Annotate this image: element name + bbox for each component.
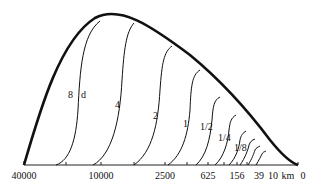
x-tick-10000: 10000 bbox=[89, 170, 114, 181]
curve-label-2: 2 bbox=[153, 110, 158, 121]
curve-label-1-8: 1/8 bbox=[234, 142, 247, 153]
x-tick-40000: 40000 bbox=[12, 170, 37, 181]
wave-envelope-diagram: 8 d 4 2 1 1/2 1/4 1/8 40000 10000 2500 6… bbox=[0, 0, 316, 193]
curve-label-8: 8 bbox=[68, 89, 73, 100]
curve-8d bbox=[56, 21, 100, 165]
curve-label-1-2: 1/2 bbox=[200, 121, 213, 132]
x-tick-156: 156 bbox=[230, 170, 245, 181]
x-axis-unit: km bbox=[282, 170, 295, 181]
envelope-curve bbox=[24, 14, 298, 165]
curve-label-d: d bbox=[81, 89, 86, 100]
curve-label-4: 4 bbox=[115, 99, 120, 110]
curve-label-1-4: 1/4 bbox=[218, 132, 231, 143]
curve-label-1: 1 bbox=[183, 118, 188, 129]
curve-4 bbox=[93, 23, 134, 165]
x-tick-39: 39 bbox=[254, 170, 264, 181]
x-tick-10: 10 bbox=[268, 170, 278, 181]
curve-extra-3 bbox=[256, 151, 266, 165]
x-tick-2500: 2500 bbox=[155, 170, 175, 181]
x-tick-0: 0 bbox=[301, 170, 306, 181]
x-tick-625: 625 bbox=[201, 170, 216, 181]
curve-2 bbox=[134, 46, 172, 165]
